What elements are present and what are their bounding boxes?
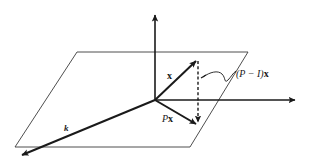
label-residual: (P − I)x <box>236 68 269 80</box>
vector-x-arrow <box>155 61 196 100</box>
label-residual-x: x <box>264 68 269 79</box>
label-x: x <box>167 70 172 81</box>
label-px: Px <box>161 113 173 124</box>
label-k: k <box>64 123 69 133</box>
label-px-p: P <box>161 113 168 124</box>
label-residual-prefix: (P − I) <box>236 68 264 80</box>
label-px-x: x <box>168 113 173 124</box>
leader-tip <box>201 75 206 78</box>
projection-diagram: x Px (P − I)x k <box>0 0 311 166</box>
